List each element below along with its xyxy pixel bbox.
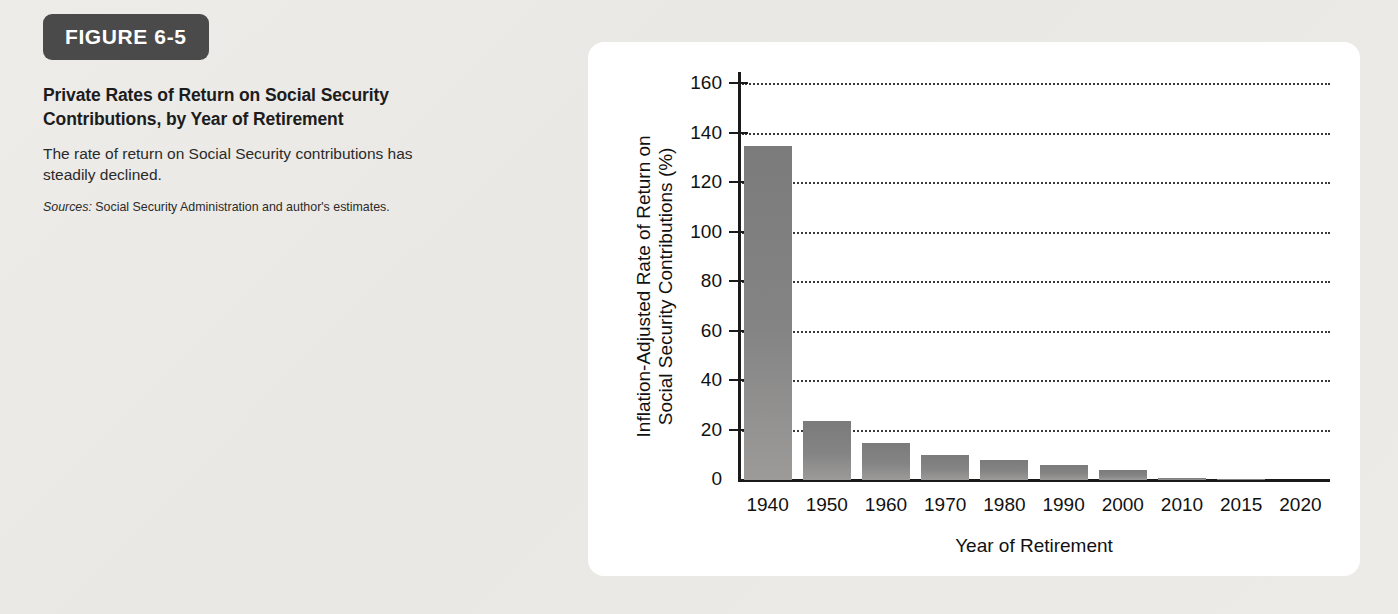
x-tick-label: 1950	[797, 494, 856, 516]
y-tick-label: 40	[652, 369, 722, 391]
y-tick-label: 80	[652, 270, 722, 292]
bar	[862, 443, 910, 480]
x-tick-label: 2020	[1271, 494, 1330, 516]
bar	[980, 460, 1028, 480]
figure-description: The rate of return on Social Security co…	[43, 144, 468, 185]
x-tick-label: 2010	[1152, 494, 1211, 516]
x-tick-label: 1970	[916, 494, 975, 516]
bar	[1099, 470, 1147, 480]
x-tick-label: 1960	[856, 494, 915, 516]
x-tick-label: 1940	[738, 494, 797, 516]
figure-title: Private Rates of Return on Social Securi…	[43, 84, 473, 131]
bar-chart: Inflation-Adjusted Rate of Return on Soc…	[588, 42, 1360, 576]
bar	[1217, 479, 1265, 480]
y-tick-label: 100	[652, 221, 722, 243]
chart-card: Inflation-Adjusted Rate of Return on Soc…	[588, 42, 1360, 576]
y-tick-label: 120	[652, 171, 722, 193]
x-tick-label: 2015	[1212, 494, 1271, 516]
x-tick-label: 2000	[1093, 494, 1152, 516]
y-tick-label: 0	[652, 468, 722, 490]
y-tick-label: 140	[652, 122, 722, 144]
bar	[1040, 465, 1088, 480]
y-tick-label: 160	[652, 72, 722, 94]
x-tick-label: 1990	[1034, 494, 1093, 516]
bar-series	[738, 72, 1330, 480]
x-axis-title: Year of Retirement	[738, 535, 1330, 557]
figure-source-text: Social Security Administration and autho…	[92, 200, 390, 214]
y-tick-label: 60	[652, 320, 722, 342]
figure-source-label: Sources:	[43, 200, 92, 214]
bar	[803, 421, 851, 480]
bar	[1158, 478, 1206, 480]
x-tick-label: 1980	[975, 494, 1034, 516]
figure-number-badge: FIGURE 6-5	[43, 14, 209, 60]
bar	[921, 455, 969, 480]
bar	[744, 146, 792, 480]
figure-caption-column: FIGURE 6-5 Private Rates of Return on So…	[43, 14, 563, 215]
figure-source: Sources: Social Security Administration …	[43, 199, 513, 215]
y-tick-label: 20	[652, 419, 722, 441]
figure-page: FIGURE 6-5 Private Rates of Return on So…	[0, 0, 1398, 614]
